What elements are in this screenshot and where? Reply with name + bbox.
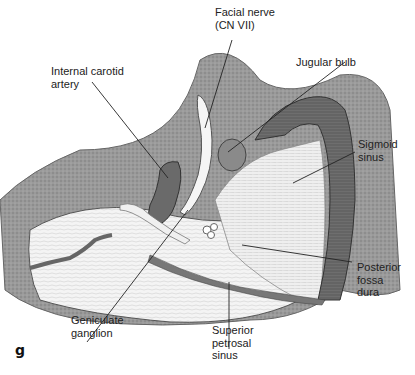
label-internal-carotid-artery: Internal carotid artery [51,65,124,90]
label-superior-petrosal-sinus: Superior petrosal sinus [212,324,254,362]
panel-label: g [15,342,25,358]
label-geniculate-ganglion: Geniculate ganglion [71,314,124,339]
label-posterior-fossa-dura: Posterior fossa dura [357,261,401,299]
jugular-bulb-vessel [218,139,246,171]
label-sigmoid-sinus: Sigmoid sinus [358,138,398,163]
label-jugular-bulb: Jugular bulb [296,56,356,69]
label-facial-nerve: Facial nerve (CN VII) [215,6,275,31]
